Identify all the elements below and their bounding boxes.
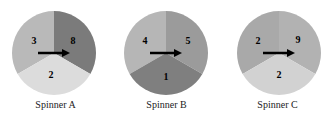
spinner-a: 3 8 2 Spinner A [0, 0, 111, 125]
spinner-c: 2 9 2 Spinner C [222, 0, 333, 125]
spinner-a-wheel: 3 8 2 [0, 0, 111, 100]
sector-right-number: 5 [186, 35, 191, 46]
sector-right-number: 8 [71, 35, 76, 46]
spinner-a-label: Spinner A [0, 99, 111, 110]
sector-bottom-number: 1 [164, 71, 169, 82]
sector-right-number: 9 [296, 34, 301, 45]
sector-bottom-number: 2 [49, 69, 54, 80]
spinner-b-label: Spinner B [111, 99, 222, 110]
sector-bottom-number: 2 [277, 69, 282, 80]
spinner-c-wheel: 2 9 2 [222, 0, 333, 100]
spinner-b-wheel: 4 5 1 [111, 0, 222, 100]
sector-left-number: 3 [32, 35, 37, 46]
sector-left-number: 4 [143, 35, 148, 46]
spinner-b: 4 5 1 Spinner B [111, 0, 222, 125]
sector-left-number: 2 [256, 35, 261, 46]
spinner-c-label: Spinner C [222, 99, 333, 110]
